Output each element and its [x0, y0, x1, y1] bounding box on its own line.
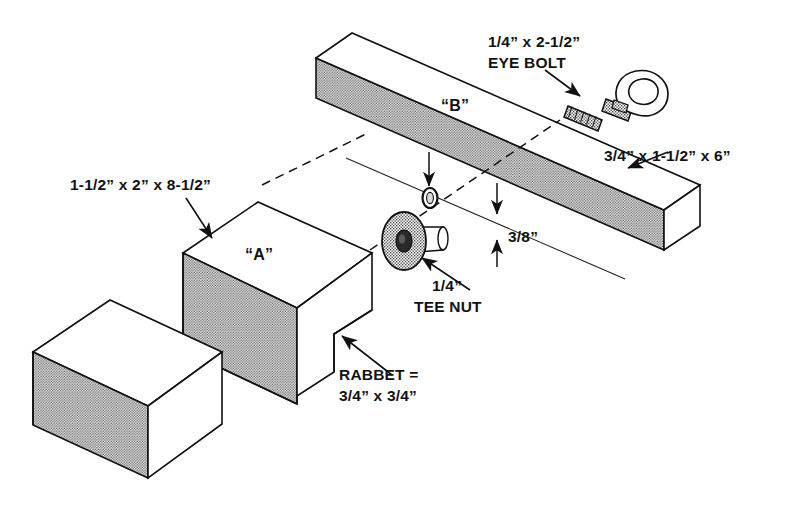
rabbet-label-line2: 3/4” x 3/4”: [339, 387, 417, 405]
block-a-dim-leader: [186, 198, 212, 238]
tee-nut-name-label: TEE NUT: [414, 298, 482, 316]
eye-bolt-leader: [545, 70, 580, 96]
eye-bolt-name-label: EYE BOLT: [488, 54, 566, 72]
eye-bolt-size-label: 1/4” x 2-1/2”: [488, 33, 580, 51]
block-a-dims-label: 1-1/2” x 2” x 8-1/2”: [70, 176, 211, 194]
part-label-b: “B”: [441, 97, 469, 115]
groove-depth-label: 3/8”: [508, 228, 538, 246]
tee-nut: [382, 212, 448, 270]
part-label-a: “A”: [245, 246, 273, 264]
diagram-canvas: 1/4” x 2-1/2” EYE BOLT 3/4” x 1-1/2” x 6…: [0, 0, 799, 512]
assembly-drawing: [0, 0, 799, 512]
eye-bolt: [564, 71, 668, 131]
board-b-dims-label: 3/4” x 1-1/2” x 6”: [604, 147, 731, 165]
rabbet-label-line1: RABBET =: [339, 366, 419, 384]
tee-nut-size-label: 1/4”: [432, 277, 462, 295]
